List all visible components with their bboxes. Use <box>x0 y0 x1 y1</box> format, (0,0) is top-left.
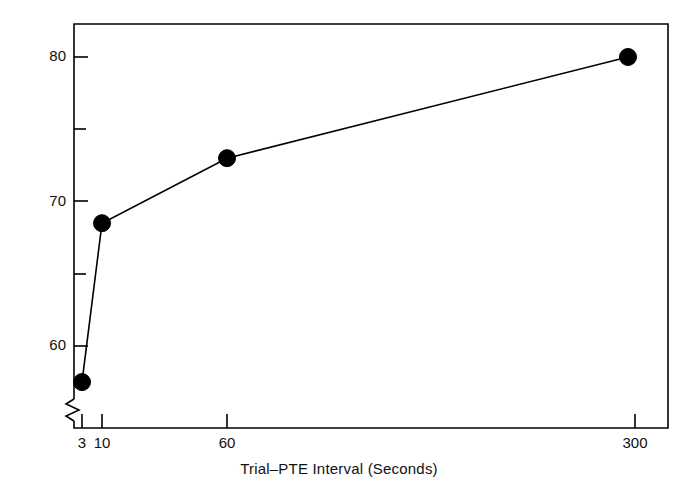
data-point-marker <box>219 150 236 167</box>
x-axis-ticks <box>82 414 635 428</box>
y-tick-label-60: 60 <box>0 336 66 353</box>
axis-frame-path <box>74 24 668 428</box>
x-tick-label-300: 300 <box>595 434 675 451</box>
axis-break-icon <box>66 399 79 421</box>
y-tick-label-70: 70 <box>0 192 66 209</box>
x-tick-label-10: 10 <box>62 434 142 451</box>
x-tick-label-60: 60 <box>187 434 267 451</box>
y-tick-label-80: 80 <box>0 47 66 64</box>
chart-figure: Median Percentage CRs Trial–PTE Interval… <box>0 0 678 499</box>
plot-frame <box>74 24 668 428</box>
series-markers <box>74 49 637 391</box>
y-axis-major-ticks <box>74 57 88 346</box>
series-line-median-percentage-crs <box>82 57 628 382</box>
x-axis-title: Trial–PTE Interval (Seconds) <box>240 460 438 477</box>
line-chart-plot <box>0 0 678 499</box>
axis-break-zigzag <box>66 399 79 421</box>
data-point-marker <box>620 49 637 66</box>
data-series-group <box>74 49 637 391</box>
data-point-marker <box>74 374 91 391</box>
data-point-marker <box>94 215 111 232</box>
